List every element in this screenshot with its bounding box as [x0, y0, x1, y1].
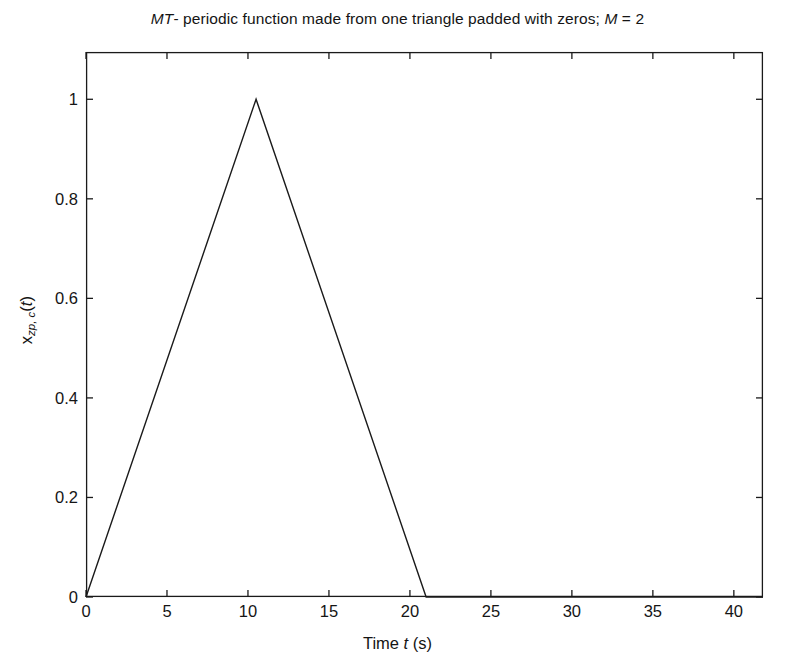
x-axis-title-tail: (s): [408, 634, 432, 652]
y-tick-label: 0.6: [55, 289, 78, 308]
chart-title-main: - periodic function made from one triang…: [173, 10, 604, 27]
plot-area: [86, 52, 763, 597]
y-tick-label: 1: [69, 90, 78, 109]
y-axis-title-base: x: [17, 336, 35, 344]
x-tick-label: 5: [162, 602, 171, 621]
y-tick-label: 0.8: [55, 189, 78, 208]
y-axis-title-arg: t: [17, 301, 35, 306]
x-tick-label: 20: [401, 602, 419, 621]
plot-background: [86, 52, 763, 597]
x-tick-label: 40: [725, 602, 743, 621]
x-tick-label: 0: [81, 602, 90, 621]
y-tick-label: 0.4: [55, 388, 78, 407]
x-tick-label: 10: [239, 602, 257, 621]
x-tick-label: 15: [320, 602, 338, 621]
chart-title-italic-symbol: M: [604, 10, 617, 27]
chart-title-tail: = 2: [617, 10, 644, 27]
chart-title-italic-lead: MT: [151, 10, 174, 27]
chart-title: MT- periodic function made from one tria…: [0, 10, 795, 28]
chart-figure: MT- periodic function made from one tria…: [0, 0, 795, 668]
y-axis-title: xzp, c(t): [14, 0, 40, 668]
x-axis-title: Time t (s): [0, 634, 795, 653]
y-axis-title-text: xzp, c(t): [17, 296, 37, 344]
y-axis-title-subscript: zp, c: [25, 312, 37, 336]
x-tick-label: 30: [563, 602, 581, 621]
y-tick-label: 0.2: [55, 488, 78, 507]
plot-svg: [86, 52, 763, 597]
x-axis-title-lead: Time: [363, 634, 404, 652]
y-tick-label: 0: [69, 588, 78, 607]
x-tick-label: 25: [482, 602, 500, 621]
x-tick-label: 35: [644, 602, 662, 621]
